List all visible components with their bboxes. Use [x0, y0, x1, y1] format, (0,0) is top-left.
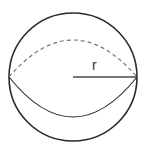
equator-back-dashed [9, 40, 137, 77]
radius-label: r [92, 57, 97, 73]
equator-front [9, 77, 137, 117]
sphere-diagram: r [0, 0, 146, 152]
